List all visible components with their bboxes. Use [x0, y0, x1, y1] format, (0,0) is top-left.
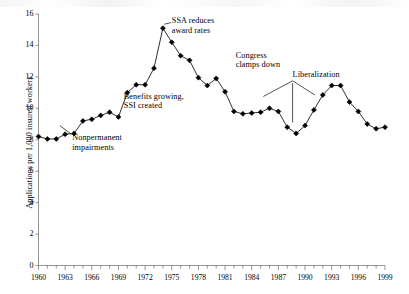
- data-point-marker: [36, 134, 41, 139]
- data-point-marker: [54, 136, 59, 141]
- x-tick-label: 1984: [237, 274, 267, 282]
- data-point-marker: [338, 83, 343, 88]
- data-point-marker: [143, 82, 148, 87]
- annotation-line: SSA reduces: [172, 16, 215, 25]
- annotation-congress-clamps-down: Congressclamps down: [236, 51, 280, 70]
- x-axis: [39, 266, 386, 271]
- data-point-marker: [311, 107, 316, 112]
- x-tick-label: 1963: [50, 274, 80, 282]
- x-tick-label: 1966: [77, 274, 107, 282]
- data-point-marker: [187, 58, 192, 63]
- annotation-ssa-reduces-award-rates: SSA reducesaward rates: [172, 16, 215, 35]
- data-series-applications: [36, 26, 388, 142]
- data-point-marker: [240, 111, 245, 116]
- data-point-marker: [267, 106, 272, 111]
- chart-figure: Applications per 1,000 insured workers 0…: [0, 0, 409, 294]
- data-point-marker: [258, 110, 263, 115]
- data-point-marker: [45, 136, 50, 141]
- x-tick-label: 1999: [370, 274, 400, 282]
- data-point-marker: [152, 66, 157, 71]
- leader-line: [263, 81, 292, 97]
- y-axis: [36, 14, 39, 266]
- data-point-marker: [98, 113, 103, 118]
- annotation-nonpermanent-impairments: Nonpermanentimpairments: [72, 133, 122, 152]
- annotation-line: SSI created: [124, 101, 184, 110]
- data-point-marker: [178, 53, 183, 58]
- annotation-liberalization: Liberalization: [293, 70, 340, 79]
- y-tick-label: 12: [23, 73, 34, 81]
- data-point-marker: [63, 132, 68, 137]
- leader-line: [164, 23, 171, 25]
- x-tick-label: 1981: [210, 274, 240, 282]
- annotation-line: Benefits growing,: [124, 92, 184, 101]
- data-point-marker: [383, 125, 388, 130]
- annotation-leader-lines: [60, 23, 315, 135]
- x-tick-label: 1969: [103, 274, 133, 282]
- data-point-marker: [107, 110, 112, 115]
- annotation-line: award rates: [172, 26, 215, 35]
- annotation-line: clamps down: [236, 60, 280, 69]
- annotation-line: Nonpermanent: [72, 133, 122, 142]
- x-tick-label: 1960: [24, 274, 54, 282]
- y-tick-label: 8: [23, 136, 34, 144]
- x-tick-label: 1978: [183, 274, 213, 282]
- line-chart-plot: [0, 0, 409, 294]
- data-point-marker: [160, 26, 165, 31]
- y-tick-label: 14: [23, 41, 34, 49]
- data-point-marker: [223, 89, 228, 94]
- data-point-marker: [276, 109, 281, 114]
- data-point-marker: [231, 109, 236, 114]
- y-tick-label: 0: [23, 262, 34, 270]
- x-tick-label: 1996: [343, 274, 373, 282]
- annotation-line: Liberalization: [293, 70, 340, 79]
- data-point-marker: [169, 40, 174, 45]
- y-tick-label: 10: [23, 104, 34, 112]
- data-point-marker: [89, 117, 94, 122]
- x-tick-label: 1990: [290, 274, 320, 282]
- data-point-marker: [116, 114, 121, 119]
- x-tick-label: 1972: [130, 274, 160, 282]
- x-tick-label: 1975: [157, 274, 187, 282]
- y-tick-label: 2: [23, 230, 34, 238]
- annotation-line: Congress: [236, 51, 280, 60]
- x-tick-label: 1993: [317, 274, 347, 282]
- y-tick-label: 6: [23, 167, 34, 175]
- data-point-marker: [249, 111, 254, 116]
- data-point-marker: [374, 126, 379, 131]
- y-tick-label: 16: [23, 10, 34, 18]
- annotation-line: impairments: [72, 143, 122, 152]
- leader-line: [293, 81, 315, 95]
- x-tick-label: 1987: [263, 274, 293, 282]
- y-tick-label: 4: [23, 199, 34, 207]
- annotation-benefits-growing-ssi-created: Benefits growing,SSI created: [124, 92, 184, 111]
